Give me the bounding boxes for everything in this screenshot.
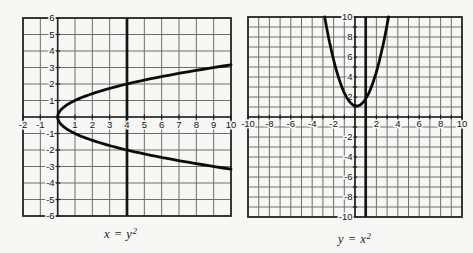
equation-caption-x-eq-y-squared: x = y2 [0,226,241,242]
svg-text:3: 3 [107,119,112,130]
svg-text:3: 3 [49,62,54,73]
graph-y-eq-x-squared: -10-8-6-4-2246810108642-2-4-6-8-10 [236,0,473,224]
equation-exponent: 2 [132,226,137,236]
svg-text:-4: -4 [46,177,54,188]
svg-text:1: 1 [72,119,77,130]
svg-text:6: 6 [417,118,422,129]
svg-text:4: 4 [124,119,129,130]
svg-text:8: 8 [347,31,352,42]
equation-base: y = x [338,232,366,246]
svg-text:-3: -3 [46,161,54,172]
svg-text:-4: -4 [308,118,316,129]
graph-x-eq-y-squared: -2-112345678910654321-1-2-3-4-5-6 [0,0,241,224]
svg-text:-2: -2 [344,131,352,142]
svg-text:9: 9 [211,119,216,130]
equation-base: x = y [104,227,132,241]
equation-caption-y-eq-x-squared: y = x2 [236,231,473,247]
svg-text:5: 5 [142,119,147,130]
svg-text:-5: -5 [46,194,54,205]
svg-text:4: 4 [347,71,352,82]
svg-text:4: 4 [395,118,400,129]
svg-text:-6: -6 [46,210,54,221]
svg-text:-1: -1 [36,119,44,130]
svg-text:6: 6 [347,51,352,62]
svg-text:-8: -8 [344,191,352,202]
svg-text:4: 4 [49,45,54,56]
svg-text:2: 2 [90,119,95,130]
equation-exponent: 2 [366,231,371,241]
svg-text:-2: -2 [46,144,54,155]
svg-text:6: 6 [159,119,164,130]
svg-text:6: 6 [49,12,54,23]
svg-text:2: 2 [374,118,379,129]
svg-text:-10: -10 [339,211,353,222]
svg-text:10: 10 [226,119,237,130]
svg-text:-2: -2 [19,119,27,130]
svg-text:-4: -4 [344,151,352,162]
svg-text:-6: -6 [287,118,295,129]
svg-text:-8: -8 [265,118,273,129]
svg-text:8: 8 [194,119,199,130]
svg-text:-2: -2 [329,118,337,129]
svg-text:10: 10 [457,118,468,129]
svg-text:7: 7 [176,119,181,130]
worksheet-figure: -2-112345678910654321-1-2-3-4-5-6 x = y2… [0,0,473,253]
svg-text:-10: -10 [241,118,255,129]
svg-text:8: 8 [438,118,443,129]
svg-text:2: 2 [49,78,54,89]
svg-text:10: 10 [342,11,353,22]
svg-text:-6: -6 [344,171,352,182]
svg-text:-1: -1 [46,128,54,139]
svg-text:1: 1 [49,95,54,106]
svg-text:5: 5 [49,29,54,40]
